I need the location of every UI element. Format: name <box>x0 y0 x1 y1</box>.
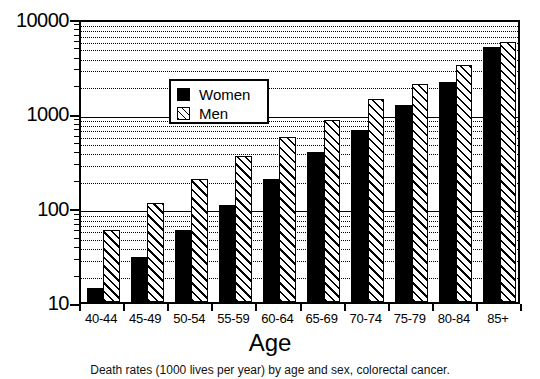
bar-women-40-44 <box>87 288 104 302</box>
bar-women-50-54 <box>175 230 192 302</box>
x-axis-title: Age <box>0 329 540 357</box>
bar-men-65-69 <box>324 120 341 302</box>
x-tick-5 <box>300 304 302 311</box>
legend-item-men: Men <box>177 104 267 123</box>
legend-label-women: Women <box>199 87 250 102</box>
bar-men-75-79 <box>412 84 429 302</box>
y-tick-label-1000: 1000 <box>27 104 70 124</box>
bar-women-65-69 <box>307 152 324 302</box>
x-tick-10 <box>520 304 522 311</box>
x-tick-label-55-59: 55-59 <box>217 311 249 326</box>
x-tick-9 <box>476 304 478 311</box>
y-tick-1000 <box>70 115 79 117</box>
bar-men-45-49 <box>147 203 164 302</box>
x-tick-label-50-54: 50-54 <box>173 311 205 326</box>
x-tick-1 <box>123 304 125 311</box>
bar-men-50-54 <box>191 179 208 302</box>
x-tick-label-70-74: 70-74 <box>350 311 382 326</box>
legend: Women Men <box>169 79 269 124</box>
bar-men-85+ <box>500 42 517 302</box>
bar-women-70-74 <box>351 130 368 302</box>
bar-men-55-59 <box>235 156 252 302</box>
bar-women-85+ <box>483 47 500 302</box>
y-tick-label-10000: 10000 <box>16 10 69 30</box>
bar-series-container <box>81 22 518 302</box>
bar-women-60-64 <box>263 179 280 302</box>
bar-men-70-74 <box>368 99 385 302</box>
x-tick-label-65-69: 65-69 <box>305 311 337 326</box>
legend-label-men: Men <box>199 106 228 121</box>
x-tick-label-80-84: 80-84 <box>438 311 470 326</box>
x-tick-label-85+: 85+ <box>487 311 508 326</box>
y-tick-label-10: 10 <box>48 293 69 313</box>
bar-women-45-49 <box>131 257 148 302</box>
x-tick-3 <box>211 304 213 311</box>
y-tick-10 <box>70 304 79 306</box>
x-tick-label-40-44: 40-44 <box>85 311 117 326</box>
plot-area: Women Men <box>79 20 520 304</box>
x-tick-0 <box>79 304 81 311</box>
x-tick-8 <box>432 304 434 311</box>
x-tick-6 <box>344 304 346 311</box>
hatched-square-icon <box>177 107 190 120</box>
bar-men-80-84 <box>456 65 473 302</box>
figure-caption: Death rates (1000 lives per year) by age… <box>0 363 540 379</box>
y-tick-100 <box>70 209 79 211</box>
x-tick-4 <box>255 304 257 311</box>
bar-men-40-44 <box>103 230 120 302</box>
x-tick-label-45-49: 45-49 <box>129 311 161 326</box>
solid-black-square-icon <box>177 88 190 101</box>
bar-men-60-64 <box>279 137 296 302</box>
x-tick-label-60-64: 60-64 <box>261 311 293 326</box>
chart-figure: 10000 1000 100 10 Women Men 40-4445-4950… <box>0 0 540 379</box>
y-tick-label-100: 100 <box>37 199 69 219</box>
x-tick-label-75-79: 75-79 <box>394 311 426 326</box>
bar-women-80-84 <box>439 82 456 302</box>
bar-women-75-79 <box>395 105 412 302</box>
x-tick-2 <box>167 304 169 311</box>
y-axis: 10000 1000 100 10 <box>0 0 79 379</box>
legend-item-women: Women <box>177 85 267 104</box>
y-tick-10000 <box>70 20 79 22</box>
x-tick-7 <box>388 304 390 311</box>
bar-women-55-59 <box>219 205 236 302</box>
